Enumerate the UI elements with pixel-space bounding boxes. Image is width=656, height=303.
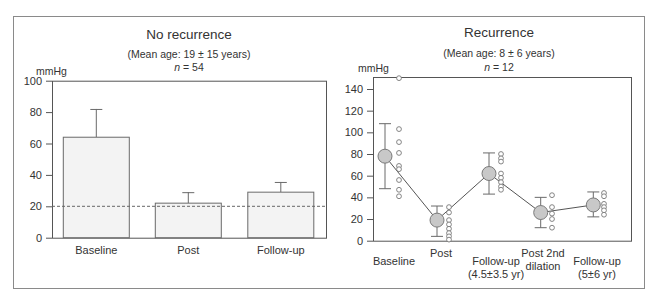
x-label: Follow-up xyxy=(573,255,621,267)
patient-point xyxy=(602,194,607,199)
right-plot-area: 020406080100120140BaselinePostFollow-up(… xyxy=(345,76,632,280)
x-label: Follow-up xyxy=(472,255,520,267)
y-tick-label: 0 xyxy=(36,232,42,244)
mean-marker xyxy=(482,167,496,181)
recurrence-panel: Recurrence (Mean age: 8 ± 6 years) n = 1… xyxy=(345,25,632,280)
mean-marker xyxy=(586,198,600,212)
patient-point xyxy=(397,187,402,192)
mean-marker xyxy=(534,206,548,220)
y-tick-label: 120 xyxy=(345,105,363,117)
y-tick-label: 40 xyxy=(30,169,42,181)
patient-point xyxy=(397,140,402,145)
x-label: Post xyxy=(430,247,452,259)
patient-point xyxy=(397,151,402,156)
patient-point xyxy=(397,127,402,132)
n-count: = 12 xyxy=(490,61,514,73)
patient-point xyxy=(602,212,607,217)
x-label: Follow-up xyxy=(257,244,305,256)
patient-point xyxy=(447,210,452,215)
y-tick-label: 40 xyxy=(351,191,363,203)
y-tick-label: 60 xyxy=(30,138,42,150)
y-tick-label: 100 xyxy=(345,126,363,138)
right-panel-n: n = 12 xyxy=(484,61,514,73)
right-y-unit: mmHg xyxy=(358,62,389,74)
x-label: Baseline xyxy=(75,244,117,256)
chart-canvas: No recurrence (Mean age: 19 ± 15 years) … xyxy=(0,0,656,303)
x-label: Post xyxy=(177,244,199,256)
y-tick-label: 140 xyxy=(345,83,363,95)
bar-baseline xyxy=(63,137,129,237)
patient-point xyxy=(447,205,452,210)
y-tick-label: 100 xyxy=(24,75,42,87)
left-panel-title: No recurrence xyxy=(146,27,232,42)
y-tick-label: 20 xyxy=(30,200,42,212)
mean-marker xyxy=(430,213,444,227)
patient-point xyxy=(550,205,555,210)
x-label: (4.5±3.5 yr) xyxy=(468,268,524,280)
x-label: Post 2nd xyxy=(521,247,564,259)
patient-point xyxy=(397,76,402,81)
patient-point xyxy=(447,237,452,242)
right-panel-title: Recurrence xyxy=(464,25,534,40)
patient-point xyxy=(550,211,555,216)
n-count: = 54 xyxy=(180,61,204,73)
left-panel-subtitle: (Mean age: 19 ± 15 years) xyxy=(127,48,250,60)
patient-point xyxy=(397,167,402,172)
y-tick-label: 20 xyxy=(351,213,363,225)
patient-point xyxy=(499,159,504,164)
y-tick-label: 0 xyxy=(357,235,363,247)
y-tick-label: 80 xyxy=(30,106,42,118)
x-label: Baseline xyxy=(373,255,415,267)
left-panel-n: n = 54 xyxy=(174,61,204,73)
patient-point xyxy=(397,178,402,183)
left-plot-area: 020406080100BaselinePostFollow-up xyxy=(24,75,327,256)
x-label: dilation xyxy=(526,260,561,272)
y-tick-label: 80 xyxy=(351,148,363,160)
mean-marker xyxy=(378,149,392,163)
patient-point xyxy=(550,217,555,222)
bar-follow-up xyxy=(248,192,314,238)
right-panel-subtitle: (Mean age: 8 ± 6 years) xyxy=(443,47,554,59)
patient-point xyxy=(397,194,402,199)
x-label: (5±6 yr) xyxy=(578,268,616,280)
y-tick-label: 60 xyxy=(351,170,363,182)
bar-post xyxy=(155,203,221,238)
no-recurrence-panel: No recurrence (Mean age: 19 ± 15 years) … xyxy=(24,27,327,256)
patient-point xyxy=(550,193,555,198)
patient-point xyxy=(499,187,504,192)
figure: No recurrence (Mean age: 19 ± 15 years) … xyxy=(0,0,656,303)
patient-point xyxy=(550,225,555,230)
